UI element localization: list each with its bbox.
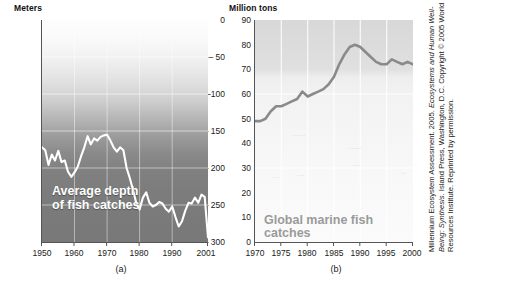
panel-b-xtick-1985: 1985: [325, 248, 344, 258]
panel-b-artifact-4: -----: [349, 145, 362, 151]
panel-a-plot-area: Average depth of fish catches: [41, 20, 208, 243]
panel-b-artifact-5: ---: [353, 162, 361, 168]
panel-b-ytick-60: 60: [221, 89, 251, 99]
panel-b-xtick-marks: [254, 242, 413, 247]
panel-b-artifact-3: ---: [297, 172, 305, 178]
figure-credit-part1: Millennium Ecosystem Assessment. 2005.: [427, 108, 436, 252]
panel-b-gridlines: [255, 20, 413, 242]
panel-b-ytick-70: 70: [221, 64, 251, 74]
figure-credit: Millennium Ecosystem Assessment. 2005. E…: [427, 2, 501, 252]
panel-b: Million tons 90 80 70 60 50 40 30 20 10 …: [225, 0, 425, 282]
panel-a-xtick-1980: 1980: [130, 248, 149, 258]
panel-b-xtick-1970: 1970: [246, 248, 265, 258]
panel-a-xtick-marks: [41, 242, 208, 247]
panel-a-xtick-1960: 1960: [65, 248, 84, 258]
panel-b-ytick-0: 0: [221, 237, 251, 247]
panel-b-ytick-10: 10: [221, 212, 251, 222]
figure-root: Meters 0 – 50 –100 – 150 – 200 – 250 – 3…: [0, 0, 505, 282]
panel-a-axis-title: Meters: [14, 3, 42, 13]
panel-b-svg: [255, 20, 413, 242]
panel-a-inchart-label-line2: of fish catches: [52, 198, 140, 212]
panel-a-xtick-1990: 1990: [163, 248, 182, 258]
panel-b-axis-title: Million tons: [229, 3, 277, 13]
panel-b-ytick-30: 30: [221, 163, 251, 173]
panel-a-inchart-label-line1: Average depth: [52, 184, 138, 198]
panel-a-inchart-label: Average depth of fish catches: [52, 185, 182, 212]
panel-a-xtick-1950: 1950: [33, 248, 52, 258]
panel-a-label: (a): [116, 264, 127, 274]
panel-b-ytick-90: 90: [221, 15, 251, 25]
panel-b-artifact-2: -----: [293, 132, 306, 138]
panel-a-xtick-1970: 1970: [98, 248, 117, 258]
panel-b-inchart-label: Global marine fish catches: [264, 214, 413, 240]
panel-b-xtick-1990: 1990: [351, 248, 370, 258]
panel-b-xtick-2000: 2000: [403, 248, 422, 258]
panel-b-xtick-1980: 1980: [298, 248, 317, 258]
panel-b-artifact-1: ---: [273, 174, 281, 180]
panel-b-xtick-1995: 1995: [377, 248, 396, 258]
panel-b-plot-area: --- ----- --- ----- --- -- Global marine…: [254, 20, 413, 243]
panel-a: Meters 0 – 50 –100 – 150 – 200 – 250 – 3…: [0, 0, 225, 282]
panel-a-xtick-2001: 2001: [197, 248, 216, 258]
panel-b-artifact-6: --: [401, 170, 406, 176]
panel-b-label: (b): [331, 264, 342, 274]
panel-b-ytick-50: 50: [221, 114, 251, 124]
panel-b-ytick-80: 80: [221, 40, 251, 50]
panel-b-ytick-40: 40: [221, 138, 251, 148]
panel-b-xtick-1975: 1975: [272, 248, 291, 258]
panel-b-ytick-20: 20: [221, 188, 251, 198]
